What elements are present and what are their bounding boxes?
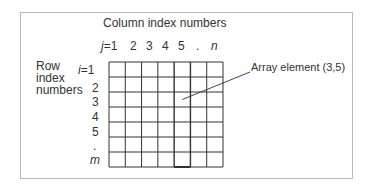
- array-grid: [0, 0, 369, 189]
- annotation-pointer-line: [182, 72, 250, 100]
